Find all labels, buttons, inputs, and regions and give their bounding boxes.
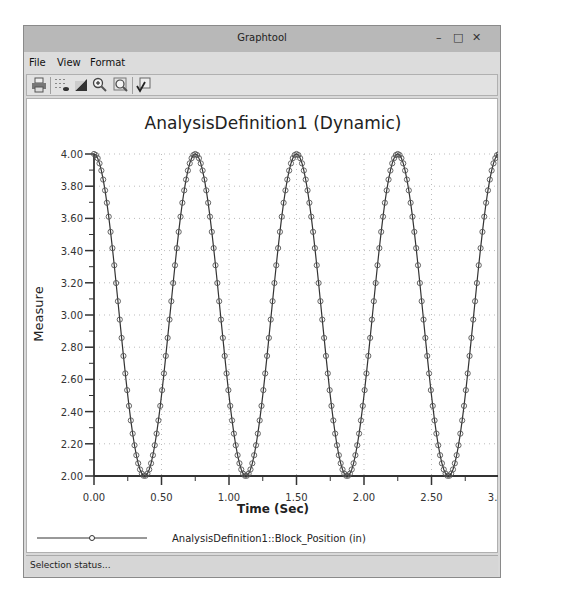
toolbar-separator bbox=[132, 77, 133, 94]
grid-lines bbox=[94, 154, 498, 476]
chart-title: AnalysisDefinition1 (Dynamic) bbox=[145, 113, 402, 133]
svg-text:2.00: 2.00 bbox=[61, 471, 83, 482]
svg-text:3.20: 3.20 bbox=[61, 278, 83, 289]
svg-text:2.60: 2.60 bbox=[61, 374, 83, 385]
svg-text:2.20: 2.20 bbox=[61, 439, 83, 450]
x-axis-ticks: 0.000.501.001.502.002.503.00 bbox=[83, 476, 498, 503]
window-title: Graphtool bbox=[24, 32, 500, 43]
svg-text:2.80: 2.80 bbox=[61, 342, 83, 353]
svg-text:2.40: 2.40 bbox=[61, 407, 83, 418]
title-bar[interactable]: Graphtool – □ ✕ bbox=[24, 26, 500, 52]
grid-toggle-icon[interactable] bbox=[54, 77, 70, 93]
svg-text:3.40: 3.40 bbox=[61, 246, 83, 257]
plot-area[interactable]: AnalysisDefinition1 (Dynamic) 4.003.803.… bbox=[26, 98, 498, 553]
print-icon[interactable] bbox=[31, 77, 47, 93]
svg-text:3.00: 3.00 bbox=[61, 310, 83, 321]
menu-bar: File View Format bbox=[24, 52, 500, 74]
svg-text:3.60: 3.60 bbox=[61, 213, 83, 224]
toolbar-separator bbox=[50, 77, 51, 94]
svg-text:3.80: 3.80 bbox=[61, 181, 83, 192]
menu-format[interactable]: Format bbox=[90, 57, 125, 68]
zoom-fit-icon[interactable] bbox=[113, 77, 129, 93]
menu-file[interactable]: File bbox=[29, 57, 46, 68]
zoom-in-icon[interactable] bbox=[92, 77, 108, 93]
y-axis-ticks: 4.003.803.603.403.203.002.802.602.402.20… bbox=[61, 149, 94, 482]
legend-label: AnalysisDefinition1::Block_Position (in) bbox=[172, 533, 366, 545]
close-button[interactable]: ✕ bbox=[472, 31, 481, 44]
svg-text:0.50: 0.50 bbox=[150, 492, 172, 503]
line-chart[interactable]: AnalysisDefinition1 (Dynamic) 4.003.803.… bbox=[27, 99, 498, 552]
svg-text:0.00: 0.00 bbox=[83, 492, 105, 503]
edit-checkmark-icon[interactable] bbox=[136, 77, 152, 93]
status-text: Selection status... bbox=[30, 560, 111, 570]
y-axis-label: Measure bbox=[31, 286, 46, 341]
svg-text:4.00: 4.00 bbox=[61, 149, 83, 160]
svg-text:2.00: 2.00 bbox=[353, 492, 375, 503]
svg-text:2.50: 2.50 bbox=[420, 492, 442, 503]
background-fill-icon[interactable] bbox=[73, 77, 89, 93]
x-axis-label: Time (Sec) bbox=[237, 502, 309, 516]
menu-view[interactable]: View bbox=[57, 57, 81, 68]
maximize-button[interactable]: □ bbox=[453, 31, 463, 44]
toolbar bbox=[26, 74, 498, 96]
status-bar: Selection status... bbox=[26, 555, 498, 576]
graphtool-window: Graphtool – □ ✕ File View Format bbox=[23, 25, 501, 578]
svg-text:3.00: 3.00 bbox=[488, 492, 498, 503]
legend: AnalysisDefinition1::Block_Position (in) bbox=[37, 533, 366, 545]
minimize-button[interactable]: – bbox=[436, 31, 442, 44]
legend-marker-icon bbox=[90, 536, 95, 541]
